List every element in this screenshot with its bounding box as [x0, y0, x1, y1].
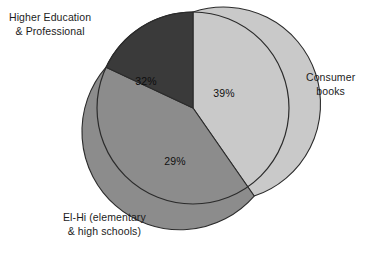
pie-label-consumer-books-line1: Consumer [306, 71, 355, 85]
slice-value-higher-education: 32% [135, 75, 157, 87]
pie-label-higher-education-line1: Higher Education [9, 11, 91, 25]
pie-label-higher-education-line2: & Professional [9, 25, 91, 39]
pie-label-el-hi: El-Hi (elementary & high schools) [63, 211, 146, 238]
slice-value-consumer-books: 39% [213, 87, 235, 99]
pie-label-consumer-books-line2: books [306, 85, 355, 99]
pie-label-el-hi-line1: El-Hi (elementary [63, 211, 146, 225]
pie-label-el-hi-line2: & high schools) [63, 225, 146, 239]
pie-label-consumer-books: Consumer books [306, 71, 355, 98]
pie-label-higher-education: Higher Education & Professional [9, 11, 91, 38]
pie-chart-graphic: 39% 29% 32% [0, 0, 377, 256]
slice-value-el-hi: 29% [164, 155, 186, 167]
pie-chart-figure: 39% 29% 32% Higher Education & Professio… [0, 0, 377, 256]
